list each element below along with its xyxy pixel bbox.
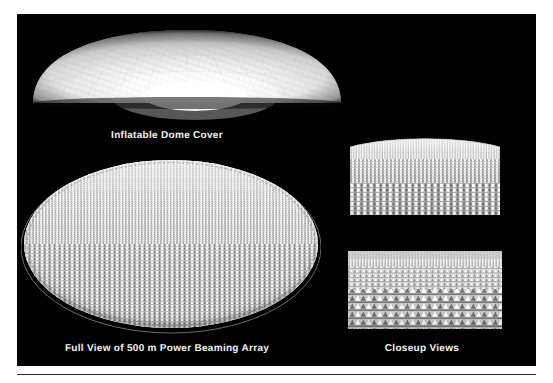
illustration-panel: Inflatable Dome Cover Full View of 500 m… <box>17 14 536 366</box>
closeup-bottom-horizon <box>348 251 502 259</box>
dome-highlight-halo <box>111 72 279 120</box>
closeup-top-illustration <box>344 133 506 219</box>
closeup-top-surface <box>344 133 506 219</box>
caption-closeup-views: Closeup Views <box>327 343 517 354</box>
dome-illustration <box>27 20 347 128</box>
closeup-bottom-illustration <box>344 247 506 331</box>
caption-full-view-array: Full View of 500 m Power Beaming Array <box>17 343 317 354</box>
bottom-divider-rule <box>17 374 536 375</box>
caption-inflatable-dome-cover: Inflatable Dome Cover <box>17 130 317 141</box>
array-disc-illustration <box>21 152 321 342</box>
figure-page: Inflatable Dome Cover Full View of 500 m… <box>0 0 553 383</box>
dome-base-shadow <box>33 97 341 109</box>
closeup-bottom-surface <box>344 247 506 331</box>
